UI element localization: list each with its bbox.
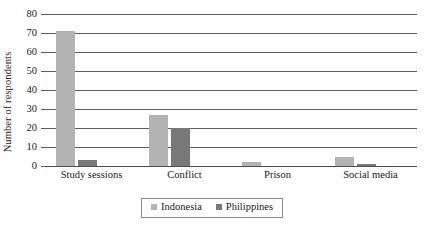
legend-label: Philippines	[226, 202, 273, 213]
axis-baseline	[45, 166, 417, 167]
y-tick-label: 70	[7, 28, 37, 39]
bar-group	[45, 14, 138, 166]
legend-swatch-icon	[216, 204, 222, 210]
legend-label: Indonesia	[161, 202, 202, 213]
y-tick-label: 40	[7, 85, 37, 96]
y-tick-label: 10	[7, 142, 37, 153]
legend: IndonesiaPhilippines	[141, 198, 283, 218]
y-tick-label: 20	[7, 123, 37, 134]
bar	[242, 162, 261, 166]
bar	[335, 157, 354, 167]
bar-group	[231, 14, 324, 166]
bars-layer	[45, 14, 417, 166]
y-tick-label: 30	[7, 104, 37, 115]
bar	[357, 164, 376, 166]
legend-entry: Indonesia	[151, 202, 202, 213]
bar-chart: Number of respondents 01020304050607080 …	[0, 0, 426, 238]
legend-swatch-icon	[151, 204, 157, 210]
bar	[149, 115, 168, 166]
x-category-label: Conflict	[138, 169, 231, 180]
x-category-label: Study sessions	[45, 169, 138, 180]
y-tick-label: 60	[7, 47, 37, 58]
y-tick-mark	[41, 166, 45, 167]
bar-group	[324, 14, 417, 166]
plot-area: 01020304050607080	[45, 14, 417, 166]
y-tick-label: 50	[7, 66, 37, 77]
bar	[56, 31, 75, 166]
bar-group	[138, 14, 231, 166]
bar	[78, 160, 97, 166]
y-tick-label: 0	[7, 161, 37, 172]
y-tick-label: 80	[7, 9, 37, 20]
bar	[171, 128, 190, 166]
legend-entry: Philippines	[216, 202, 273, 213]
x-category-label: Prison	[231, 169, 324, 180]
x-category-label: Social media	[324, 169, 417, 180]
